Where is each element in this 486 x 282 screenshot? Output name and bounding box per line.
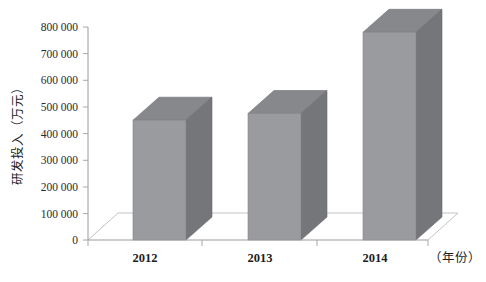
y-tick-label-400000: 400 000: [41, 128, 79, 140]
x-axis-title: （年份）: [429, 251, 481, 265]
bar-2012[interactable]: [133, 97, 212, 240]
x-axis: 2012 2013 2014 （年份）: [88, 240, 481, 265]
x-tick-label-2012: 2012: [133, 251, 158, 265]
y-tick-label-700000: 700 000: [41, 48, 79, 60]
y-axis-title: 研发投入（万元）: [10, 81, 25, 185]
floor-left-diagonal: [88, 213, 118, 240]
bar-chart-3d: 800 000 700 000 600 000 500 000 400 000 …: [0, 0, 486, 282]
y-tick-label-500000: 500 000: [41, 101, 79, 113]
bar-2013-side-face: [301, 91, 327, 241]
bar-2012-side-face: [186, 97, 212, 240]
x-tick-label-2014: 2014: [363, 251, 389, 265]
y-tick-label-0: 0: [72, 234, 78, 246]
bar-2014-front-face: [363, 32, 416, 240]
x-tick-label-2013: 2013: [248, 251, 273, 265]
bar-2013[interactable]: [248, 91, 327, 241]
bar-2014-side-face: [416, 9, 442, 240]
bar-2013-front-face: [248, 114, 301, 241]
y-tick-label-300000: 300 000: [41, 154, 79, 166]
chart-container: 800 000 700 000 600 000 500 000 400 000 …: [0, 0, 486, 282]
y-tick-label-100000: 100 000: [41, 208, 79, 220]
bar-2014[interactable]: [363, 9, 442, 240]
y-tick-label-600000: 600 000: [41, 74, 79, 86]
y-tick-label-800000: 800 000: [41, 21, 79, 33]
y-axis: 800 000 700 000 600 000 500 000 400 000 …: [10, 21, 88, 246]
y-tick-label-200000: 200 000: [41, 181, 79, 193]
bar-2012-front-face: [133, 120, 186, 240]
